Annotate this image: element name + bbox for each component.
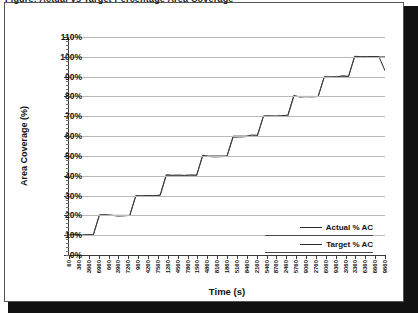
x-axis-tick [118, 255, 119, 259]
x-axis-tick-label: 2160 [254, 260, 260, 273]
x-axis-tick-label: 4560 [175, 260, 181, 273]
x-axis-tick-label: 7260 [125, 260, 131, 273]
x-axis-tick [237, 255, 238, 259]
x-axis-tick [158, 255, 159, 259]
x-axis-tick-label: 1860 [224, 260, 230, 273]
y-axis-tick-label: 40% [42, 171, 82, 181]
x-axis-tick-label: 8760 [273, 260, 279, 273]
y-axis-tick-label: 100% [42, 52, 82, 62]
chart-legend: Actual % AC Target % AC [265, 219, 373, 253]
x-axis-tick [247, 255, 248, 259]
y-axis-tick-label: 0% [42, 250, 82, 260]
gridline [69, 215, 385, 216]
y-axis-tick-label: 90% [42, 72, 82, 82]
y-axis-minor-tick [66, 223, 69, 224]
x-axis-tick-label: 4260 [145, 260, 151, 273]
x-axis-tick-label: 4860 [204, 260, 210, 273]
x-axis-tick [138, 255, 139, 259]
x-axis-labels: 6036036606960660396072609604260756012604… [69, 260, 385, 284]
x-axis-tick-label: 1260 [165, 260, 171, 273]
x-axis-tick [286, 255, 287, 259]
x-axis-tick-label: 9060 [303, 260, 309, 273]
x-axis-tick [326, 255, 327, 259]
x-axis-tick [257, 255, 258, 259]
x-axis-tick-label: 60 [66, 260, 72, 267]
y-axis-minor-tick [66, 144, 69, 145]
x-axis-tick [178, 255, 179, 259]
legend-item-actual: Actual % AC [265, 219, 373, 236]
x-axis-tick [296, 255, 297, 259]
x-axis-tick [168, 255, 169, 259]
x-axis-tick-label: 2760 [313, 260, 319, 273]
y-axis-minor-tick [66, 168, 69, 169]
y-axis-minor-tick [66, 104, 69, 105]
x-axis-tick-label: 660 [106, 260, 112, 270]
x-axis-tick-label: 3960 [115, 260, 121, 273]
series-line-actual [69, 56, 385, 235]
y-axis-tick-label: 60% [42, 131, 82, 141]
x-axis-tick-label: 2460 [283, 260, 289, 273]
y-axis-minor-tick [66, 148, 69, 149]
legend-label-actual: Actual % AC [326, 223, 373, 232]
gridline [69, 156, 385, 157]
x-axis-tick-label: 3660 [86, 260, 92, 273]
x-axis-tick-label: 360 [76, 260, 82, 270]
clipped-caption-text: Figure: Actual vs Target Percentage Area… [5, 0, 418, 5]
x-axis-tick [267, 255, 268, 259]
x-axis-tick [276, 255, 277, 259]
x-axis-tick [346, 255, 347, 259]
y-axis-minor-tick [66, 203, 69, 204]
x-axis-tick [306, 255, 307, 259]
legend-line-icon-actual [300, 224, 322, 231]
x-axis-tick-label: 6960 [96, 260, 102, 273]
x-axis-tick [207, 255, 208, 259]
x-axis-tick-label: 6660 [372, 260, 378, 273]
x-axis-tick-label: 8460 [244, 260, 250, 273]
x-axis-tick-label: 3060 [343, 260, 349, 273]
y-axis-minor-tick [66, 108, 69, 109]
x-axis-tick-label: 9660 [382, 260, 388, 273]
x-axis-tick-label: 7860 [185, 260, 191, 273]
y-axis-tick-label: 20% [42, 210, 82, 220]
y-axis-minor-tick [66, 227, 69, 228]
x-axis-tick [109, 255, 110, 259]
x-axis-title: Time (s) [69, 286, 385, 297]
y-axis-minor-tick [66, 45, 69, 46]
series-line-target [69, 57, 385, 235]
gridline [69, 136, 385, 137]
x-axis-tick-label: 7560 [155, 260, 161, 273]
gridline [69, 57, 385, 58]
gridline [69, 77, 385, 78]
x-axis-tick [188, 255, 189, 259]
chart-card: Figure: Actual vs Target Percentage Area… [4, 2, 404, 302]
y-axis-minor-tick [66, 247, 69, 248]
y-axis-tick-label: 50% [42, 151, 82, 161]
x-axis-tick [217, 255, 218, 259]
x-axis-tick-label: 3360 [352, 260, 358, 273]
x-axis-tick [148, 255, 149, 259]
y-axis-minor-tick [66, 188, 69, 189]
legend-item-target: Target % AC [265, 236, 373, 252]
legend-line-icon-target [300, 241, 322, 248]
x-axis-tick [89, 255, 90, 259]
x-axis-tick-label: 6360 [362, 260, 368, 273]
gridline [69, 37, 385, 38]
y-axis-tick-label: 30% [42, 191, 82, 201]
x-axis-tick [355, 255, 356, 259]
y-axis-minor-tick [66, 207, 69, 208]
x-axis-tick [227, 255, 228, 259]
x-axis-tick-label: 5760 [293, 260, 299, 273]
y-axis-minor-tick [66, 89, 69, 90]
y-axis-tick-label: 10% [42, 230, 82, 240]
y-axis-tick-label: 70% [42, 111, 82, 121]
x-axis-tick-label: 8160 [214, 260, 220, 273]
gridline [69, 196, 385, 197]
y-axis-minor-tick [66, 128, 69, 129]
gridline [69, 96, 385, 97]
y-axis-tick-label: 80% [42, 91, 82, 101]
y-axis-tick-label: 110% [42, 32, 82, 42]
legend-label-target: Target % AC [326, 240, 373, 249]
y-axis-minor-tick [66, 184, 69, 185]
x-axis-tick-label: 5160 [234, 260, 240, 273]
x-axis-tick-label: 1560 [194, 260, 200, 273]
